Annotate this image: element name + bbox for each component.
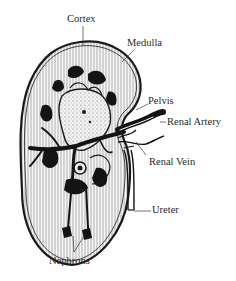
label-pelvis: Pelvis <box>148 96 174 107</box>
label-medulla: Medulla <box>127 38 162 49</box>
label-ureter: Ureter <box>152 205 179 216</box>
kidney-diagram <box>0 0 236 281</box>
pelvis-leader <box>136 104 148 110</box>
label-renal-vein: Renal Vein <box>149 157 195 168</box>
label-nephrons: Nephrons <box>49 256 90 267</box>
label-renal-artery: Renal Artery <box>167 117 221 128</box>
label-cortex: Cortex <box>67 14 96 25</box>
